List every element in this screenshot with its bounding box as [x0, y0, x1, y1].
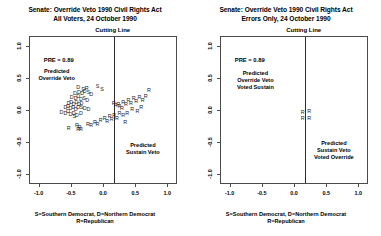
x-tick-label: 0.0 [290, 190, 298, 196]
region-annotation-2: PredictedSustain Veto [126, 142, 160, 156]
data-point-S: S [73, 114, 77, 119]
data-point-R: R [136, 110, 140, 115]
title-line-2: All Voters, 24 October 1990 [0, 15, 190, 24]
y-tick-mark [217, 78, 220, 79]
pre-statistic-label: PRE = 0.89 [235, 57, 265, 63]
y-tick-label: -1.0 [16, 170, 22, 179]
annotation-line: Sustain Veto [126, 149, 160, 156]
data-point-R: R [139, 105, 143, 110]
x-tick-label: 1.0 [164, 190, 172, 196]
panel-all-voters: Senate: Override Veto 1990 Civil Rights … [0, 0, 190, 236]
x-tick-mark [167, 184, 168, 187]
y-tick-label: 0.0 [16, 106, 22, 114]
y-tick-mark [26, 78, 29, 79]
y-tick-mark [217, 110, 220, 111]
annotation-line: Override Veto [237, 77, 274, 84]
title-line-1: Senate: Override Veto 1990 Civil Rights … [191, 6, 381, 15]
annotation-line: Sustain Veto [314, 147, 354, 154]
data-point-D: D [85, 98, 89, 103]
x-tick-mark [71, 184, 72, 187]
data-point-R: R [115, 117, 119, 122]
title-line-2: Errors Only, 24 October 1990 [191, 15, 381, 24]
y-tick-mark [26, 174, 29, 175]
x-tick-label: -1.0 [34, 190, 43, 196]
figure-root: Senate: Override Veto 1990 Civil Rights … [0, 0, 381, 236]
annotation-line: Voted Sustain [237, 84, 274, 91]
region-annotation-1: PredictedOverride VetoVoted Sustain [237, 70, 274, 91]
annotation-line: Voted Override [314, 154, 354, 161]
region-annotation-2: PredictedSustain VetoVoted Override [314, 140, 354, 161]
data-point-R: R [125, 112, 129, 117]
data-point-S: S [96, 84, 100, 89]
x-tick-mark [262, 184, 263, 187]
data-point-R: R [112, 101, 116, 106]
y-tick-label: -0.5 [16, 138, 22, 147]
y-tick-mark [26, 110, 29, 111]
y-tick-label: 0.0 [207, 106, 213, 114]
y-tick-mark [26, 142, 29, 143]
x-tick-label: -1.0 [225, 190, 234, 196]
panel-errors-only: Senate: Override Veto 1990 Civil Rights … [191, 0, 381, 236]
data-point-R: R [79, 127, 83, 132]
y-tick-mark [26, 46, 29, 47]
y-tick-label: 1.0 [207, 42, 213, 50]
caption-line-1: S=Southern Democrat, D=Northern Democrat [191, 211, 381, 218]
caption-line-1: S=Southern Democrat, D=Northern Democrat [0, 211, 190, 218]
y-tick-mark [217, 142, 220, 143]
annotation-line: Predicted [126, 142, 160, 149]
data-point-D: D [87, 108, 91, 113]
annotation-line: Predicted [237, 70, 274, 77]
x-tick-mark [358, 184, 359, 187]
data-point-R: R [117, 111, 121, 116]
region-annotation-1: PredictedOverride Veto [38, 68, 74, 82]
x-tick-label: -0.5 [257, 190, 266, 196]
pre-statistic-label: PRE = 0.89 [44, 57, 74, 63]
data-point-D: D [89, 92, 93, 97]
x-tick-label: 0.5 [322, 190, 330, 196]
x-tick-label: 1.0 [355, 190, 363, 196]
cutting-line [305, 37, 306, 183]
y-tick-label: -1.0 [207, 170, 213, 179]
data-point-R: R [301, 116, 305, 121]
panel-title-left: Senate: Override Veto 1990 Civil Rights … [0, 6, 190, 23]
caption-line-2: R=Republican [191, 218, 381, 225]
title-line-1: Senate: Override Veto 1990 Civil Rights … [0, 6, 190, 15]
data-point-R: R [121, 113, 125, 118]
caption-line-2: R=Republican [0, 218, 190, 225]
y-tick-mark [217, 174, 220, 175]
data-point-R: R [144, 94, 148, 99]
x-tick-mark [103, 184, 104, 187]
y-tick-mark [217, 46, 220, 47]
y-tick-label: 0.5 [207, 74, 213, 82]
x-tick-label: 0.5 [131, 190, 139, 196]
panel-title-right: Senate: Override Veto 1990 Civil Rights … [191, 6, 381, 23]
annotation-line: Predicted [314, 140, 354, 147]
data-point-R: R [123, 121, 127, 126]
cutting-line-label: Cutting Line [95, 27, 130, 33]
x-tick-mark [39, 184, 40, 187]
legend-caption-right: S=Southern Democrat, D=Northern Democrat… [191, 211, 381, 225]
x-tick-label: 0.0 [99, 190, 107, 196]
data-point-R: R [130, 107, 134, 112]
cutting-line [114, 37, 115, 183]
y-tick-label: -0.5 [207, 138, 213, 147]
x-tick-mark [294, 184, 295, 187]
annotation-line: Override Veto [38, 75, 74, 82]
y-tick-label: 0.5 [16, 74, 22, 82]
x-tick-mark [135, 184, 136, 187]
x-tick-mark [230, 184, 231, 187]
data-point-R: R [147, 88, 151, 93]
legend-caption-left: S=Southern Democrat, D=Northern Democrat… [0, 211, 190, 225]
annotation-line: Predicted [38, 68, 74, 75]
data-point-R: R [67, 126, 71, 131]
y-tick-label: 1.0 [16, 42, 22, 50]
data-point-S: S [100, 87, 104, 92]
data-point-D: D [79, 112, 83, 117]
x-tick-mark [326, 184, 327, 187]
data-point-R: R [307, 116, 311, 121]
cutting-line-label: Cutting Line [286, 27, 321, 33]
x-tick-label: -0.5 [66, 190, 75, 196]
